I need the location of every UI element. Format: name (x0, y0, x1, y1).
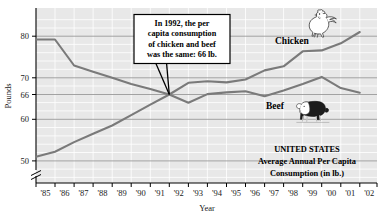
y-tick-label-66: 66 (21, 90, 30, 100)
x-tick-label-17: '02 (364, 188, 374, 198)
x-tick-label-7: '92 (174, 188, 184, 198)
x-tick-marks (36, 183, 377, 187)
x-tick-label-0: '85 (40, 188, 50, 198)
caption-line-3: Consumption (in lb.) (270, 169, 344, 178)
x-tick-label-5: '90 (136, 188, 146, 198)
chart-container: 80 70 66 60 50 '85 '86 '87 '88 '89 '90 '… (0, 0, 385, 221)
x-tick-label-15: '00 (326, 188, 336, 198)
callout-line-2: capita consumption (148, 29, 217, 38)
y-tick-label-60: 60 (21, 114, 30, 124)
x-axis-title: Year (199, 203, 215, 213)
x-tick-label-8: '93 (193, 188, 203, 198)
x-tick-label-10: '95 (231, 188, 241, 198)
callout-line-1: In 1992, the per (154, 19, 209, 28)
y-tick-label-80: 80 (21, 31, 30, 41)
x-tick-label-13: '98 (288, 188, 298, 198)
x-tick-label-11: '96 (250, 188, 260, 198)
x-tick-label-14: '99 (307, 188, 317, 198)
y-tick-label-70: 70 (21, 73, 30, 83)
callout-line-3: of chicken and beef (148, 40, 216, 49)
series-label-chicken: Chicken (275, 36, 310, 46)
y-tick-marks (32, 36, 36, 161)
x-tick-label-6: '91 (155, 188, 165, 198)
callout-line-4: was the same: 66 lb. (147, 50, 217, 59)
x-tick-label-1: '86 (59, 188, 69, 198)
caption-line-2: Average Annual Per Capita (258, 157, 357, 166)
x-tick-label-4: '89 (117, 188, 127, 198)
caption-line-1: UNITED STATES (274, 145, 340, 154)
series-label-beef: Beef (266, 101, 285, 111)
y-axis-title: Pounds (3, 83, 13, 108)
y-tick-label-50: 50 (21, 156, 30, 166)
x-tick-label-16: '01 (345, 188, 355, 198)
x-tick-label-2: '87 (79, 188, 89, 198)
x-tick-label-3: '88 (98, 188, 108, 198)
x-tick-label-9: '94 (212, 188, 223, 198)
line-chart: 80 70 66 60 50 '85 '86 '87 '88 '89 '90 '… (0, 0, 385, 221)
x-tick-label-12: '97 (269, 188, 279, 198)
